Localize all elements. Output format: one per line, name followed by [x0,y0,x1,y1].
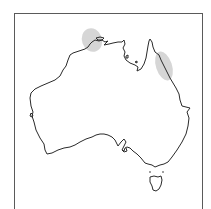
flinders-island [162,171,164,173]
mornington-island [135,61,137,63]
australia-distribution-map [0,0,211,209]
tasmania-coastline [150,176,162,191]
king-island [149,171,151,173]
groote-eylandt [126,55,128,58]
